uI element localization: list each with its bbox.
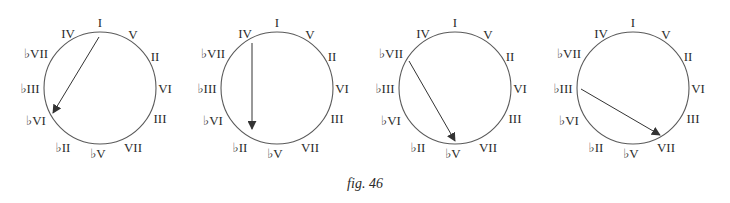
key-circle xyxy=(44,32,156,144)
degree-label-iii: III xyxy=(331,111,344,126)
degree-label-bv: ♭V xyxy=(623,146,639,161)
degree-label-vii: VII xyxy=(479,140,497,155)
degree-label-biii: ♭III xyxy=(553,81,572,96)
degree-label-iv: IV xyxy=(416,26,430,41)
key-circle xyxy=(577,32,689,144)
degree-label-vi: VI xyxy=(158,81,172,96)
degree-label-ii: II xyxy=(506,49,515,64)
degree-label-vi: VI xyxy=(335,81,349,96)
degree-label-i: I xyxy=(98,15,102,30)
degree-label-vii: VII xyxy=(301,140,319,155)
degree-label-biii: ♭III xyxy=(20,81,39,96)
degree-label-bvi: ♭VI xyxy=(203,113,223,128)
degree-label-iv: IV xyxy=(61,26,75,41)
degree-label-v: V xyxy=(483,27,493,42)
degree-label-i: I xyxy=(275,15,279,30)
degree-label-bvi: ♭VI xyxy=(381,113,401,128)
degree-label-bvii: ♭VII xyxy=(379,46,403,61)
degree-label-v: V xyxy=(305,27,315,42)
degree-label-bvi: ♭VI xyxy=(26,113,46,128)
circle-diagrams: IVIIVIIIIVII♭V♭II♭VI♭III♭VIIIVIVIIVIIIIV… xyxy=(20,15,704,161)
circle-diagram-4: IVIIVIIIIVII♭V♭II♭VI♭III♭VIIIV xyxy=(553,15,704,161)
progression-arrow xyxy=(409,61,455,141)
degree-label-bvii: ♭VII xyxy=(557,46,581,61)
degree-label-iii: III xyxy=(687,111,700,126)
degree-label-iv: IV xyxy=(238,26,252,41)
degree-label-vii: VII xyxy=(657,140,675,155)
degree-label-bv: ♭V xyxy=(267,146,283,161)
degree-label-v: V xyxy=(128,27,138,42)
circle-diagram-3: IVIIVIIIIVII♭V♭II♭VI♭III♭VIIIV xyxy=(375,15,526,161)
degree-label-i: I xyxy=(631,15,635,30)
degree-label-bii: ♭II xyxy=(56,140,71,155)
degree-label-ii: II xyxy=(328,49,337,64)
degree-label-iv: IV xyxy=(594,26,608,41)
circle-diagram-2: IVIIVIIIIVII♭V♭II♭VI♭III♭VIIIV xyxy=(197,15,348,161)
degree-label-biii: ♭III xyxy=(375,81,394,96)
degree-label-bv: ♭V xyxy=(445,146,461,161)
degree-label-biii: ♭III xyxy=(197,81,216,96)
degree-label-bvii: ♭VII xyxy=(24,46,48,61)
circle-of-fifths-figure: IVIIVIIIIVII♭V♭II♭VI♭III♭VIIIVIVIIVIIIIV… xyxy=(0,0,730,203)
degree-label-bii: ♭II xyxy=(233,140,248,155)
figure-caption: fig. 46 xyxy=(0,176,730,192)
degree-label-i: I xyxy=(453,15,457,30)
degree-label-vii: VII xyxy=(124,140,142,155)
degree-label-vi: VI xyxy=(513,81,527,96)
circle-diagram-1: IVIIVIIIIVII♭V♭II♭VI♭III♭VIIIV xyxy=(20,15,171,161)
degree-label-bii: ♭II xyxy=(411,140,426,155)
key-circle xyxy=(399,32,511,144)
degree-label-iii: III xyxy=(509,111,522,126)
degree-label-bvi: ♭VI xyxy=(559,113,579,128)
degree-label-bv: ♭V xyxy=(90,146,106,161)
degree-label-bvii: ♭VII xyxy=(201,46,225,61)
progression-arrow xyxy=(581,89,660,135)
degree-label-bii: ♭II xyxy=(589,140,604,155)
degree-label-vi: VI xyxy=(691,81,705,96)
degree-label-ii: II xyxy=(151,49,160,64)
degree-label-iii: III xyxy=(154,111,167,126)
degree-label-v: V xyxy=(661,27,671,42)
degree-label-ii: II xyxy=(684,49,693,64)
key-circle xyxy=(221,32,333,144)
